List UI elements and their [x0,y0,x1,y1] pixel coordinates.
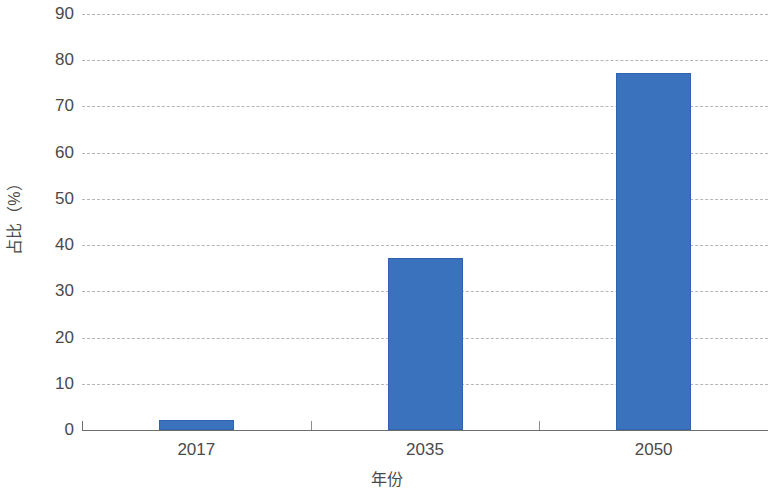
bar [388,258,463,430]
bar [159,420,234,430]
plot-area [82,14,768,430]
gridline [82,14,768,15]
y-axis-tick-label: 20 [30,328,74,348]
bar [616,73,691,430]
y-axis-title-text: 占比（%） [1,175,25,256]
x-axis-title: 年份 [0,466,774,489]
gridline [82,60,768,61]
x-axis-tick-mark [311,421,312,430]
y-axis-title: 占比（%） [0,0,26,430]
x-axis-tick-label: 2035 [406,440,444,460]
y-axis-tick-label: 70 [30,96,74,116]
x-axis-tick-mark [539,421,540,430]
y-axis-tick-label: 90 [30,4,74,24]
y-axis-tick-label: 10 [30,374,74,394]
x-axis-tick-label: 2050 [635,440,673,460]
y-axis-tick-label: 80 [30,50,74,70]
y-axis-line [82,421,83,430]
y-axis-tick-label: 50 [30,189,74,209]
y-axis-tick-label: 40 [30,235,74,255]
x-axis-tick-label: 2017 [177,440,215,460]
y-axis-tick-label: 0 [30,420,74,440]
x-axis-line [82,430,768,431]
y-axis-tick-label: 60 [30,143,74,163]
y-axis-tick-label: 30 [30,281,74,301]
bar-chart-figure: 占比（%） 0102030405060708090 201720352050 年… [0,0,774,489]
